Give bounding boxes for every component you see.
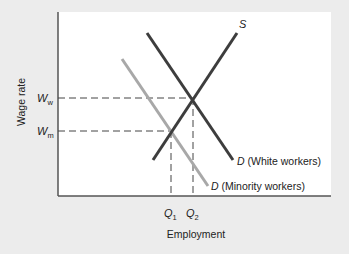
y-axis-title: Wage rate [15,78,27,126]
q2-label: Q2 [186,207,199,222]
supply-label: S [239,18,247,30]
wage-discrimination-chart: S D (White workers) D (Minority workers)… [0,0,349,254]
demand-minority-label: D (Minority workers) [211,180,305,192]
x-axis-title: Employment [167,228,225,240]
ww-label: Ww [37,92,53,107]
wm-label: Wm [37,125,54,140]
q1-label: Q1 [164,207,177,222]
demand-white-label: D (White workers) [237,155,321,167]
chart-svg: S D (White workers) D (Minority workers)… [0,0,349,254]
